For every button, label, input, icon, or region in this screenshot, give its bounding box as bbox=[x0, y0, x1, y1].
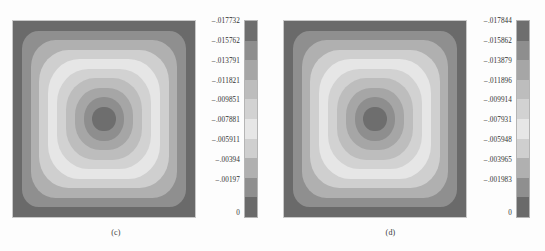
colorbar-tick-label: –.00394 bbox=[215, 156, 240, 164]
colorbar-segment bbox=[245, 197, 257, 217]
colorbar-segment bbox=[245, 21, 257, 41]
colorbar-tick-label: –.015762 bbox=[212, 37, 240, 45]
colorbar-gradient-d bbox=[516, 20, 530, 218]
colorbar-segment bbox=[517, 80, 529, 100]
contour-band bbox=[92, 107, 115, 132]
colorbar-tick-label: –.017844 bbox=[484, 17, 512, 25]
colorbar-segment bbox=[517, 158, 529, 178]
colorbar-tick-label: –.007881 bbox=[212, 116, 240, 124]
colorbar-tick-label: –.001983 bbox=[484, 176, 512, 184]
colorbar-tick-label: –.005911 bbox=[212, 136, 240, 144]
colorbar-segment bbox=[517, 21, 529, 41]
colorbar-tick-label: –.00197 bbox=[215, 176, 240, 184]
colorbar-segment bbox=[517, 178, 529, 198]
caption-c: (c) bbox=[0, 228, 252, 237]
colorbar-segment bbox=[245, 41, 257, 61]
figure-root: –.017732–.015762–.013791–.011821–.009851… bbox=[0, 0, 545, 251]
colorbar-ticks-d: –.017844–.015862–.013879–.011896–.009914… bbox=[468, 20, 514, 218]
colorbar-segment bbox=[245, 80, 257, 100]
colorbar-tick-label: –.007931 bbox=[484, 116, 512, 124]
colorbar-segment bbox=[245, 178, 257, 198]
colorbar-tick-label: –.013791 bbox=[212, 57, 240, 65]
colorbar-segment bbox=[245, 158, 257, 178]
colorbar-tick-label: –.011896 bbox=[484, 77, 512, 85]
colorbar-tick-label: –.013879 bbox=[484, 57, 512, 65]
colorbar-ticks-c: –.017732–.015762–.013791–.011821–.009851… bbox=[196, 20, 242, 218]
colorbar-segment bbox=[517, 139, 529, 159]
panel-d: –.017844–.015862–.013879–.011896–.009914… bbox=[272, 0, 545, 251]
colorbar-segment bbox=[245, 99, 257, 119]
colorbar-tick-label: –.009914 bbox=[484, 96, 512, 104]
colorbar-tick-label: –.011821 bbox=[212, 77, 240, 85]
colorbar-segment bbox=[517, 41, 529, 61]
contour-plot-d bbox=[283, 20, 467, 218]
colorbar-tick-label: 0 bbox=[236, 209, 240, 217]
colorbar-segment bbox=[517, 197, 529, 217]
colorbar-segment bbox=[245, 139, 257, 159]
colorbar-gradient-c bbox=[244, 20, 258, 218]
colorbar-segment bbox=[517, 60, 529, 80]
colorbar-segment bbox=[245, 119, 257, 139]
panel-c: –.017732–.015762–.013791–.011821–.009851… bbox=[0, 0, 272, 251]
colorbar-segment bbox=[517, 99, 529, 119]
caption-d: (d) bbox=[254, 228, 527, 237]
colorbar-tick-label: –.005948 bbox=[484, 136, 512, 144]
contour-plot-c bbox=[12, 20, 196, 218]
colorbar-segment bbox=[517, 119, 529, 139]
contour-band bbox=[363, 107, 386, 132]
colorbar-segment bbox=[245, 60, 257, 80]
colorbar-tick-label: 0 bbox=[508, 209, 512, 217]
colorbar-tick-label: –.015862 bbox=[484, 37, 512, 45]
colorbar-tick-label: –.009851 bbox=[212, 96, 240, 104]
colorbar-tick-label: –.017732 bbox=[212, 17, 240, 25]
colorbar-tick-label: –.003965 bbox=[484, 156, 512, 164]
